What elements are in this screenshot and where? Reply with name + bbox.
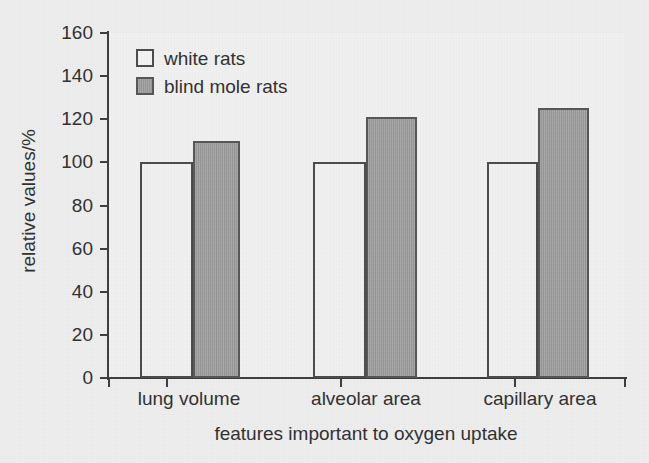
x-axis-category-label: capillary area bbox=[450, 388, 630, 410]
y-axis-title: relative values/% bbox=[18, 86, 40, 316]
bar bbox=[313, 162, 366, 378]
x-axis-end-tick bbox=[108, 379, 110, 387]
y-axis-tick-label: 140 bbox=[37, 66, 93, 85]
x-axis-tick-mark bbox=[340, 379, 342, 387]
y-axis-tick: 100 bbox=[0, 161, 107, 163]
y-axis-tick-mark bbox=[100, 161, 107, 163]
bar bbox=[193, 141, 240, 378]
y-axis-tick: 60 bbox=[0, 248, 107, 250]
y-axis-tick-label: 40 bbox=[37, 282, 93, 301]
y-axis-tick-mark bbox=[100, 75, 107, 77]
y-axis-tick-mark bbox=[100, 32, 107, 34]
y-axis-tick-label: 0 bbox=[37, 368, 93, 387]
y-axis-tick: 160 bbox=[0, 32, 107, 34]
legend-swatch-icon bbox=[136, 77, 154, 95]
y-axis-tick-mark bbox=[100, 118, 107, 120]
legend-item: blind mole rats bbox=[136, 72, 288, 100]
legend-swatch-icon bbox=[136, 49, 154, 67]
y-axis-tick-label: 100 bbox=[37, 152, 93, 171]
y-axis-tick: 80 bbox=[0, 205, 107, 207]
legend-item-label: white rats bbox=[164, 49, 245, 68]
y-axis-tick-mark bbox=[100, 248, 107, 250]
x-axis-category-label: alveolar area bbox=[276, 388, 456, 410]
y-axis-tick: 120 bbox=[0, 118, 107, 120]
bar-chart-figure: oxygen uptake 020406080100120140160 rela… bbox=[0, 0, 649, 463]
y-axis-tick-label: 120 bbox=[37, 109, 93, 128]
bar bbox=[538, 108, 589, 378]
legend-item: white rats bbox=[136, 44, 288, 72]
x-axis-tick-mark bbox=[514, 379, 516, 387]
y-axis-tick-mark bbox=[100, 334, 107, 336]
y-axis-line bbox=[107, 31, 109, 380]
y-axis-tick: 140 bbox=[0, 75, 107, 77]
x-axis-title: features important to oxygen uptake bbox=[107, 423, 625, 445]
y-axis-tick: 40 bbox=[0, 291, 107, 293]
y-axis-tick-label: 60 bbox=[37, 239, 93, 258]
y-axis-tick-label: 20 bbox=[37, 325, 93, 344]
chart-legend: white ratsblind mole rats bbox=[136, 44, 288, 100]
x-axis-tick-mark bbox=[166, 379, 168, 387]
bar bbox=[366, 117, 417, 378]
y-axis-tick-label: 80 bbox=[37, 196, 93, 215]
bar bbox=[140, 162, 193, 378]
x-axis-end-tick bbox=[624, 379, 626, 387]
y-axis-tick-label: 160 bbox=[37, 23, 93, 42]
y-axis-tick: 20 bbox=[0, 334, 107, 336]
legend-item-label: blind mole rats bbox=[164, 77, 288, 96]
y-axis-tick-mark bbox=[100, 291, 107, 293]
y-axis-tick-mark bbox=[100, 377, 107, 379]
y-axis-tick-mark bbox=[100, 205, 107, 207]
y-axis-tick: 0 bbox=[0, 377, 107, 379]
bar bbox=[487, 162, 538, 378]
x-axis-category-label: lung volume bbox=[99, 388, 279, 410]
